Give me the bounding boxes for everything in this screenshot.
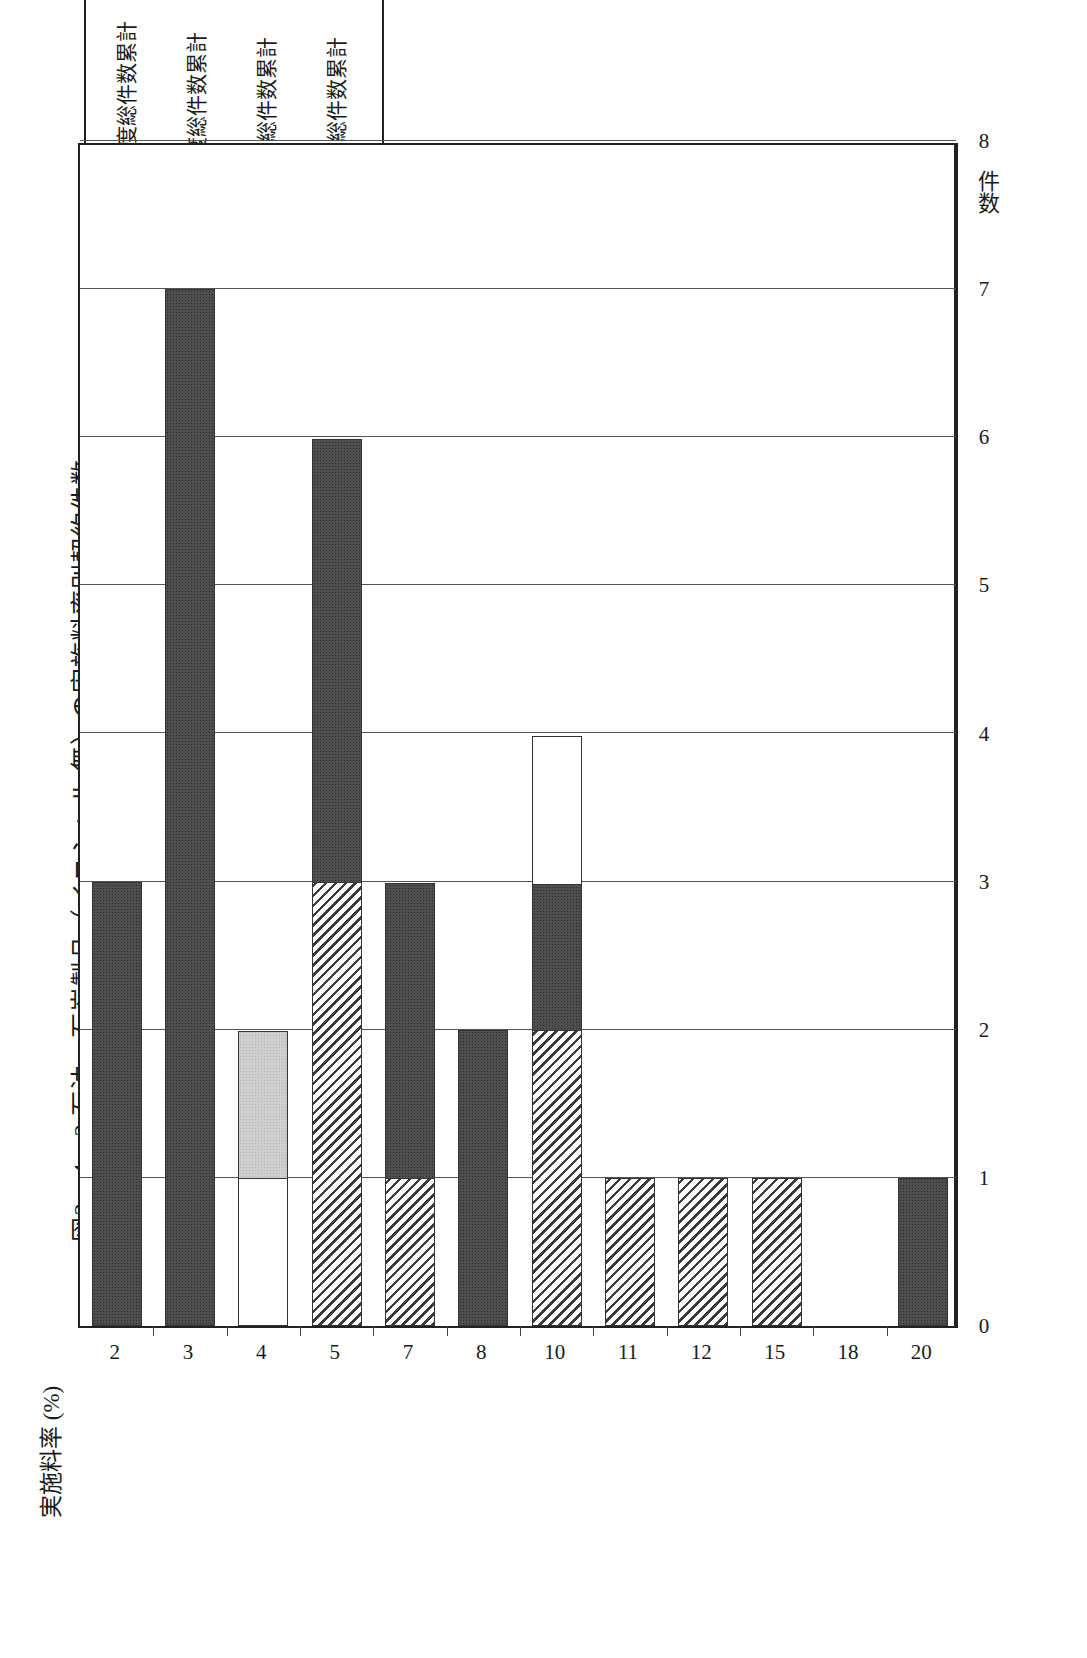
figure-root: 図2－4－2 石油・石炭製品（イニシャル 無）の実施料率別契約件数 平成4年度 …	[0, 0, 1087, 1658]
category-tick	[667, 1326, 668, 1336]
value-axis-baseline	[954, 145, 956, 1326]
value-axis-tick-label: 1	[964, 1166, 1004, 1191]
gridline	[80, 140, 956, 141]
category-tick	[153, 1326, 154, 1336]
value-axis-title: 件 数	[976, 171, 1002, 215]
category-axis-tick-label: 18	[825, 1340, 871, 1365]
bar-segment	[165, 289, 215, 1326]
category-tick	[373, 1326, 374, 1336]
category-axis-tick-label: 15	[752, 1340, 798, 1365]
bar-segment	[238, 1178, 288, 1326]
bar-segment	[605, 1178, 655, 1326]
category-tick	[593, 1326, 594, 1336]
value-axis-tick-label: 7	[964, 277, 1004, 302]
value-axis-tick-label: 0	[964, 1314, 1004, 1339]
category-axis-tick-label: 2	[92, 1340, 138, 1365]
bar-stack	[238, 1030, 288, 1326]
bar-segment	[678, 1178, 728, 1326]
bar-stack	[385, 882, 435, 1326]
category-axis-tick-label: 11	[605, 1340, 651, 1365]
value-axis-tick-label: 8	[964, 129, 1004, 154]
bar-segment	[752, 1178, 802, 1326]
value-axis-tick-label: 5	[964, 573, 1004, 598]
bar-segment	[385, 1178, 435, 1326]
bar-stack	[165, 289, 215, 1326]
category-tick	[447, 1326, 448, 1336]
bar-stack	[752, 1178, 802, 1326]
bar-segment	[92, 882, 142, 1326]
bar-stack	[458, 1030, 508, 1326]
category-axis-tick-label: 10	[532, 1340, 578, 1365]
category-tick	[887, 1326, 888, 1336]
bar-segment	[898, 1178, 948, 1326]
bar-segment	[312, 439, 362, 883]
value-axis-tick-label: 3	[964, 870, 1004, 895]
category-axis-tick-label: 3	[165, 1340, 211, 1365]
bar-stack	[92, 882, 142, 1326]
value-axis-tick-label: 2	[964, 1018, 1004, 1043]
bar-stack	[532, 734, 582, 1327]
bar-segment	[532, 1030, 582, 1326]
bar-stack	[678, 1178, 728, 1326]
bar-segment	[532, 883, 582, 1031]
category-axis-title: 実施料率 (%)	[32, 1386, 66, 1518]
value-axis-tick-label: 4	[964, 722, 1004, 747]
category-tick	[300, 1326, 301, 1336]
category-tick	[227, 1326, 228, 1336]
bar-stack	[898, 1178, 948, 1326]
bar-stack	[312, 437, 362, 1326]
category-tick	[740, 1326, 741, 1336]
category-axis-tick-label: 12	[678, 1340, 724, 1365]
bar-segment	[312, 882, 362, 1326]
category-axis-tick-label: 7	[385, 1340, 431, 1365]
plot-area	[78, 143, 958, 1328]
bar-segment	[385, 883, 435, 1179]
category-axis-tick-label: 20	[898, 1340, 944, 1365]
category-axis-tick-label: 4	[238, 1340, 284, 1365]
category-axis-tick-label: 5	[312, 1340, 358, 1365]
bar-segment	[238, 1031, 288, 1179]
category-tick	[813, 1326, 814, 1336]
category-axis-tick-label: 8	[458, 1340, 504, 1365]
bar-stack	[605, 1178, 655, 1326]
category-tick	[520, 1326, 521, 1336]
bar-segment	[532, 737, 582, 885]
plot-rotation-layer	[0, 0, 1087, 1658]
bar-segment	[458, 1030, 508, 1326]
value-axis-tick-label: 6	[964, 425, 1004, 450]
